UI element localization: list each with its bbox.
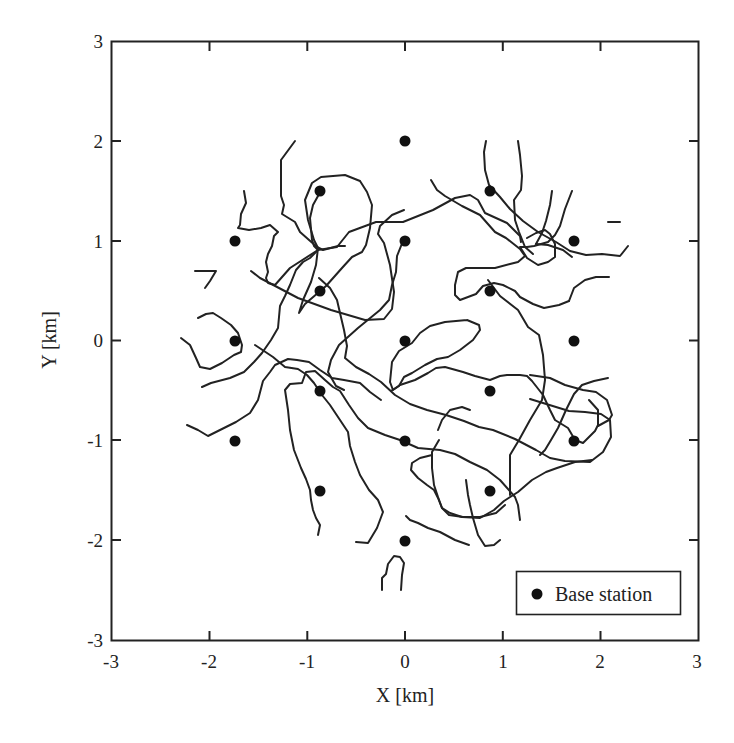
y-tick-labels: 3 2 1 0 -1 -2 -3 bbox=[87, 31, 103, 651]
base-station-marker bbox=[400, 136, 411, 147]
base-station-marker bbox=[315, 286, 326, 297]
base-station-marker bbox=[569, 236, 580, 247]
base-station-marker bbox=[485, 286, 496, 297]
base-station-marker bbox=[400, 436, 411, 447]
base-station-marker bbox=[485, 186, 496, 197]
y-tick-label: 0 bbox=[94, 330, 104, 351]
base-station-marker bbox=[400, 536, 411, 547]
base-station-marker bbox=[230, 236, 241, 247]
y-tick-label: -3 bbox=[87, 630, 103, 651]
base-station-marker bbox=[315, 186, 326, 197]
y-tick-label: 3 bbox=[94, 31, 104, 52]
x-tick-labels: -3 -2 -1 0 1 2 3 bbox=[103, 651, 702, 672]
x-tick-label: 2 bbox=[595, 651, 605, 672]
base-station-marker bbox=[230, 336, 241, 347]
y-tick-label: 2 bbox=[94, 131, 104, 152]
x-tick-label: -1 bbox=[299, 651, 315, 672]
base-station-marker bbox=[569, 336, 580, 347]
y-axis-label: Y [km] bbox=[38, 311, 60, 369]
legend-label: Base station bbox=[555, 583, 652, 605]
x-tick-label: 1 bbox=[498, 651, 508, 672]
x-tick-label: -3 bbox=[103, 651, 119, 672]
legend-marker-icon bbox=[532, 589, 543, 600]
base-station-marker bbox=[485, 386, 496, 397]
x-axis-label: X [km] bbox=[376, 684, 434, 706]
base-station-marker bbox=[485, 486, 496, 497]
base-station-marker bbox=[400, 336, 411, 347]
legend: Base station bbox=[517, 572, 681, 615]
trajectories bbox=[181, 141, 628, 590]
x-tick-label: 0 bbox=[400, 651, 410, 672]
base-station-marker bbox=[315, 386, 326, 397]
base-station-marker bbox=[315, 486, 326, 497]
x-tick-label: 3 bbox=[692, 651, 702, 672]
y-tick-label: -2 bbox=[87, 530, 103, 551]
base-station-marker bbox=[400, 236, 411, 247]
base-station-marker bbox=[230, 436, 241, 447]
x-tick-label: -2 bbox=[201, 651, 217, 672]
y-tick-label: 1 bbox=[94, 231, 104, 252]
base-station-marker bbox=[569, 436, 580, 447]
y-tick-label: -1 bbox=[87, 430, 103, 451]
chart-figure: -3 -2 -1 0 1 2 3 3 2 1 0 -1 -2 -3 X [km]… bbox=[0, 0, 734, 743]
